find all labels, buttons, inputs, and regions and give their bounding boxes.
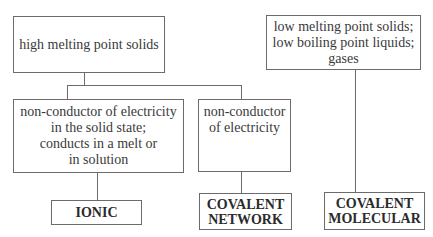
node-ionic: IONIC xyxy=(51,200,142,225)
connector-low-mp-to-covalent-molecular xyxy=(355,69,356,192)
node-covalent-network-label: COVALENT NETWORK xyxy=(207,197,285,227)
node-network-properties-text: non-conductor of electricity xyxy=(204,104,286,136)
node-covalent-network: COVALENT NETWORK xyxy=(199,193,292,230)
node-network-properties: non-conductor of electricity xyxy=(198,99,291,172)
node-ionic-properties: non-conductor of electricity in the soli… xyxy=(13,99,184,173)
node-low-melting-point-text: low melting point solids; low boiling po… xyxy=(273,19,415,67)
connector-ionic-prop-to-ionic xyxy=(97,172,98,200)
node-covalent-molecular: COVALENT MOLECULAR xyxy=(324,192,425,230)
node-covalent-molecular-label: COVALENT MOLECULAR xyxy=(328,196,421,226)
node-low-melting-point: low melting point solids; low boiling po… xyxy=(266,15,421,70)
node-ionic-label: IONIC xyxy=(75,205,117,220)
connector-network-prop-to-covalent-network xyxy=(241,171,242,193)
connector-split-to-ionic-prop xyxy=(67,85,68,99)
node-high-melting-point-text: high melting point solids xyxy=(19,37,159,53)
connector-high-to-split xyxy=(84,72,85,85)
node-high-melting-point: high melting point solids xyxy=(13,16,165,73)
connector-split-to-network-prop xyxy=(241,85,242,99)
connector-split-horizontal xyxy=(67,85,242,86)
node-ionic-properties-text: non-conductor of electricity in the soli… xyxy=(20,104,176,168)
